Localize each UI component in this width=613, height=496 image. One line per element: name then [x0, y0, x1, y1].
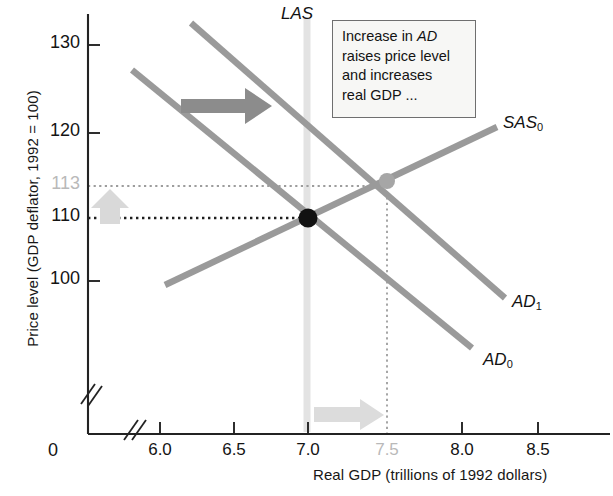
- ad-as-chart-figure: 130 120 113 110 100 0 6.0 6.5 7.0 7.5 8.…: [0, 0, 613, 496]
- x-axis-break-icon: [124, 420, 146, 440]
- x-tick-marks: [160, 422, 538, 434]
- y-tick-label-130: 130: [18, 32, 80, 53]
- x-tick-label-8-5: 8.5: [508, 440, 568, 460]
- x-tick-label-7-5: 7.5: [357, 440, 417, 460]
- sas0-curve: [165, 127, 497, 285]
- ad1-curve-label: AD1: [512, 292, 542, 312]
- las-curve-label: LAS: [281, 4, 313, 24]
- price-level-up-arrow-icon: [91, 189, 129, 224]
- origin-label-0: 0: [40, 440, 66, 461]
- initial-equilibrium-point: [299, 209, 318, 228]
- x-tick-label-8-0: 8.0: [432, 440, 492, 460]
- new-equilibrium-point: [379, 173, 395, 189]
- x-tick-label-6-0: 6.0: [130, 440, 190, 460]
- x-tick-label-7-0: 7.0: [278, 440, 338, 460]
- callout-line-1: Increase in AD: [342, 27, 467, 47]
- callout-line-3: and increases: [342, 66, 467, 86]
- y-axis-title: Price level (GDP deflator, 1992 = 100): [24, 69, 41, 369]
- x-axis-title: Real GDP (trillions of 1992 dollars): [313, 466, 547, 483]
- callout-line-1-em: AD: [417, 28, 437, 44]
- ad1-label-sub: 1: [536, 300, 542, 312]
- real-gdp-right-arrow-icon: [314, 399, 384, 430]
- ad0-label-sub: 0: [507, 358, 513, 370]
- callout-line-1-pre: Increase in: [342, 28, 417, 44]
- ad0-label-text: AD: [483, 350, 507, 369]
- callout-line-2: raises price level: [342, 47, 467, 67]
- chart-canvas: [0, 0, 613, 496]
- callout-line-4: real GDP ...: [342, 86, 467, 106]
- x-tick-label-6-5: 6.5: [204, 440, 264, 460]
- y-axis-break-icon: [81, 384, 102, 406]
- y-tick-marks: [88, 45, 100, 281]
- increase-in-ad-callout: Increase in AD raises price level and in…: [332, 20, 476, 118]
- ad0-curve-label: AD0: [483, 350, 513, 370]
- sas0-label-sub: 0: [537, 121, 543, 133]
- sas0-label-text: SAS: [503, 113, 537, 132]
- ad1-label-text: AD: [512, 292, 536, 311]
- sas0-curve-label: SAS0: [503, 113, 543, 133]
